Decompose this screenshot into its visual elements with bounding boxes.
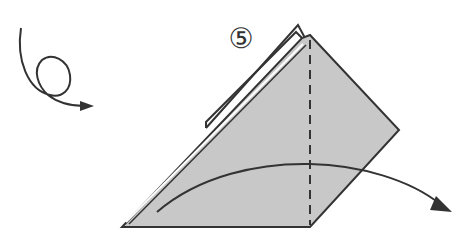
- paper-shape: [122, 35, 399, 227]
- turn-over-arrow-icon: [20, 28, 94, 111]
- step-number-label: ⑤: [224, 22, 258, 56]
